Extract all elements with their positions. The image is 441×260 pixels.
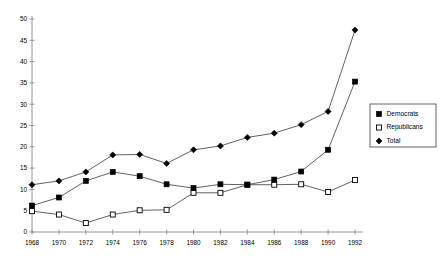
datapoint-democrats-square-marker xyxy=(218,182,223,187)
datapoint-total-diamond-marker xyxy=(271,130,277,136)
x-tick-label: 1970 xyxy=(52,239,67,246)
datapoint-republicans-square-marker xyxy=(56,212,61,217)
y-tick-label: 40 xyxy=(20,58,28,65)
x-tick-label: 1992 xyxy=(348,239,363,246)
y-tick-label: 20 xyxy=(20,143,28,150)
legend-label-republicans: Republicans xyxy=(387,123,424,131)
datapoint-democrats-square-marker xyxy=(83,178,88,183)
datapoint-republicans-square-marker xyxy=(326,189,331,194)
datapoint-republicans-square-marker xyxy=(164,207,169,212)
legend-swatch-republicans-square-marker xyxy=(377,125,382,130)
datapoint-total-diamond-marker xyxy=(56,178,62,184)
datapoint-democrats-square-marker xyxy=(164,182,169,187)
x-tick-label: 1982 xyxy=(213,239,228,246)
datapoint-total-diamond-marker xyxy=(164,160,170,166)
datapoint-republicans-square-marker xyxy=(191,190,196,195)
x-tick-label: 1984 xyxy=(240,239,255,246)
datapoint-total-diamond-marker xyxy=(244,134,250,140)
x-tick-label: 1968 xyxy=(25,239,40,246)
datapoint-democrats-square-marker xyxy=(245,182,250,187)
x-tick-label: 1972 xyxy=(79,239,94,246)
datapoint-democrats-square-marker xyxy=(110,169,115,174)
x-tick-label: 1986 xyxy=(267,239,282,246)
y-tick-label: 50 xyxy=(20,15,28,22)
datapoint-republicans-square-marker xyxy=(137,208,142,213)
datapoint-total-diamond-marker xyxy=(29,182,35,188)
y-tick-label: 45 xyxy=(20,37,28,44)
datapoint-total-diamond-marker xyxy=(110,152,116,158)
datapoint-republicans-square-marker xyxy=(299,182,304,187)
x-tick-label: 1976 xyxy=(133,239,148,246)
legend-label-total: Total xyxy=(387,137,401,144)
datapoint-republicans-square-marker xyxy=(83,221,88,226)
series-total xyxy=(29,27,358,188)
y-tick-label: 5 xyxy=(23,207,27,214)
legend-label-democrats: Democrats xyxy=(387,110,420,117)
x-tick-label: 1990 xyxy=(321,239,336,246)
series-republicans xyxy=(30,178,358,226)
y-tick-label: 35 xyxy=(20,79,28,86)
datapoint-democrats-square-marker xyxy=(272,177,277,182)
datapoint-democrats-square-marker xyxy=(299,169,304,174)
x-tick-label: 1978 xyxy=(159,239,174,246)
x-tick-label: 1988 xyxy=(294,239,309,246)
y-tick-label: 0 xyxy=(23,228,27,235)
datapoint-democrats-square-marker xyxy=(30,203,35,208)
datapoint-total-diamond-marker xyxy=(298,122,304,128)
datapoint-total-diamond-marker xyxy=(325,108,331,114)
line-chart: 0510152025303540455019681970197219741976… xyxy=(0,0,441,260)
y-tick-label: 30 xyxy=(20,101,28,108)
datapoint-republicans-square-marker xyxy=(30,209,35,214)
datapoint-democrats-square-marker xyxy=(137,174,142,179)
datapoint-democrats-square-marker xyxy=(56,195,61,200)
datapoint-democrats-square-marker xyxy=(353,79,358,84)
datapoint-republicans-square-marker xyxy=(353,178,358,183)
datapoint-republicans-square-marker xyxy=(272,182,277,187)
y-tick-label: 10 xyxy=(20,186,28,193)
x-tick-label: 1974 xyxy=(106,239,121,246)
datapoint-democrats-square-marker xyxy=(191,186,196,191)
series-line-total xyxy=(32,30,355,185)
datapoint-total-diamond-marker xyxy=(83,169,89,175)
y-tick-label: 15 xyxy=(20,164,28,171)
chart-canvas: 0510152025303540455019681970197219741976… xyxy=(0,0,441,260)
x-tick-label: 1980 xyxy=(186,239,201,246)
datapoint-total-diamond-marker xyxy=(217,143,223,149)
legend-swatch-democrats-square-marker xyxy=(377,112,382,117)
series-democrats xyxy=(30,79,358,208)
datapoint-republicans-square-marker xyxy=(218,190,223,195)
datapoint-democrats-square-marker xyxy=(326,147,331,152)
y-tick-label: 25 xyxy=(20,122,28,129)
datapoint-republicans-square-marker xyxy=(110,212,115,217)
datapoint-total-diamond-marker xyxy=(352,27,358,33)
chart-legend: DemocratsRepublicansTotal xyxy=(370,104,436,147)
datapoint-total-diamond-marker xyxy=(137,151,143,157)
datapoint-total-diamond-marker xyxy=(191,147,197,153)
